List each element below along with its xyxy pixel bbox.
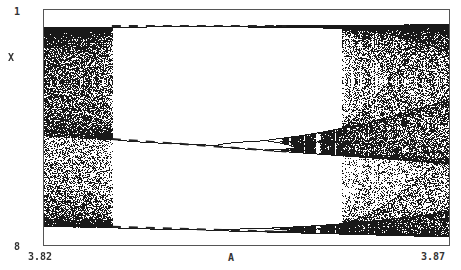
bifurcation-canvas	[44, 10, 449, 245]
y-tick-top: 1	[14, 6, 20, 17]
y-tick-bottom: 8	[14, 241, 20, 252]
plot-area	[43, 9, 450, 246]
x-axis-label: A	[228, 252, 234, 263]
y-axis-label: X	[8, 52, 14, 63]
x-tick-right: 3.87	[421, 251, 445, 262]
x-tick-left: 3.82	[28, 251, 52, 262]
